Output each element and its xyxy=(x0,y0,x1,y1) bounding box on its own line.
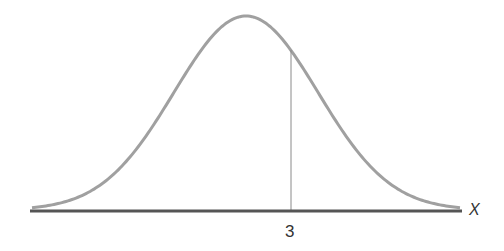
bell-curve xyxy=(32,16,460,208)
axis-label: X xyxy=(469,202,480,218)
normal-curve-diagram xyxy=(0,0,504,251)
marker-label: 3 xyxy=(285,223,294,240)
